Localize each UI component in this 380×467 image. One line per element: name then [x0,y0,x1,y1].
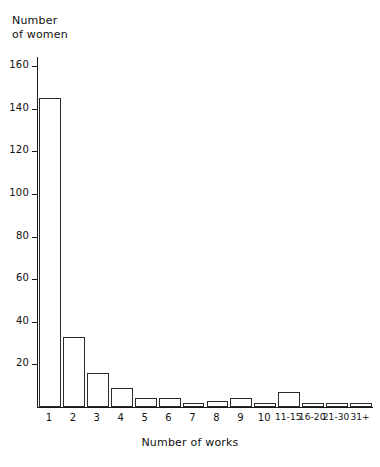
x-tick-label: 9 [228,412,252,423]
bar-slot [38,50,62,407]
y-tick-label: 20 [16,357,29,368]
bar-slot [229,50,253,407]
bar [111,388,133,407]
x-tick-label: 6 [157,412,181,423]
bar [302,403,324,407]
y-tick-label: 160 [9,59,29,70]
y-tick: 80 [32,237,37,238]
x-tick-label: 7 [181,412,205,423]
bar [207,401,229,407]
bar-slot [325,50,349,407]
bar [254,403,276,407]
y-tick-label: 100 [9,187,29,198]
bar-slot [349,50,373,407]
x-tick-label: 5 [133,412,157,423]
y-tick-label: 120 [9,144,29,155]
bar-slot [182,50,206,407]
bar [63,337,85,407]
bar-slot [206,50,230,407]
bar-slot [158,50,182,407]
x-tick-label: 2 [61,412,85,423]
bar [39,98,61,407]
bar-slot [301,50,325,407]
x-axis-title: Number of works [0,436,380,449]
bar-chart-figure: Number of women 20406080100120140160 123… [0,0,380,467]
y-tick-label: 40 [16,315,29,326]
y-tick-label: 140 [9,102,29,113]
bar [135,398,157,407]
bar-slot [110,50,134,407]
x-tick-label: 3 [85,412,109,423]
bar-slot [86,50,110,407]
x-axis-line [37,407,373,408]
bar-slot [277,50,301,407]
x-tick-label: 8 [205,412,229,423]
y-tick: 140 [32,109,37,110]
x-tick-label: 4 [109,412,133,423]
bar [278,392,300,407]
x-tick-label: 31+ [344,412,376,422]
bar [350,403,372,407]
y-tick: 40 [32,322,37,323]
bar-slot [134,50,158,407]
bar-slot [62,50,86,407]
x-axis-ticks: 1234567891011-1516-2021-3031+ [37,412,377,428]
y-tick: 60 [32,279,37,280]
bar [230,398,252,407]
y-tick: 100 [32,194,37,195]
bar [183,403,205,407]
y-axis-title: Number of women [12,14,68,42]
bar [326,403,348,407]
bar-series [38,50,373,407]
bar [87,373,109,407]
y-tick: 120 [32,151,37,152]
bar [159,398,181,407]
y-tick-label: 80 [16,230,29,241]
y-tick: 160 [32,66,37,67]
x-tick-label: 1 [37,412,61,423]
bar-slot [253,50,277,407]
y-tick: 20 [32,364,37,365]
plot-area: 20406080100120140160 [37,50,373,408]
y-tick-label: 60 [16,272,29,283]
